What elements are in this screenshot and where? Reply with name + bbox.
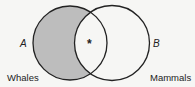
set-b-letter: B (153, 39, 160, 49)
set-a-letter: A (20, 39, 27, 49)
circle-b (75, 6, 150, 81)
venn-diagram: A B * Whales Mammals (0, 0, 195, 87)
set-b-name: Mammals (150, 73, 191, 83)
intersection-asterisk-icon: * (87, 38, 92, 50)
set-a-name: Whales (7, 73, 39, 83)
